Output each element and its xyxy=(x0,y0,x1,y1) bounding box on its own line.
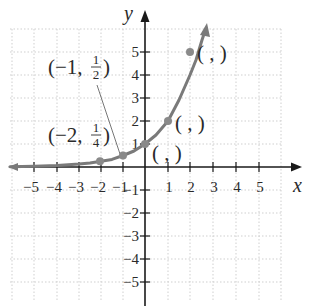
point-label-1: ( , ) xyxy=(175,111,205,135)
point-label-2: ( , ) xyxy=(197,41,227,65)
svg-text:5: 5 xyxy=(256,179,264,195)
point-1 xyxy=(164,117,172,125)
y-axis-arrow-icon xyxy=(141,10,150,22)
x-axis-arrow-icon xyxy=(291,163,302,172)
svg-text:2: 2 xyxy=(187,179,195,195)
svg-text:1: 1 xyxy=(93,52,100,67)
svg-text:3: 3 xyxy=(210,179,218,195)
x-tick-labels: −5 −4 −3 −2 −1 1 2 3 4 5 xyxy=(23,179,264,195)
svg-text:−2: −2 xyxy=(90,179,106,195)
svg-text:): ) xyxy=(103,123,110,147)
svg-text:−5: −5 xyxy=(123,274,139,290)
svg-text:(−2,: (−2, xyxy=(48,123,83,147)
svg-text:4: 4 xyxy=(233,179,241,195)
point-0 xyxy=(141,140,149,148)
svg-text:−3: −3 xyxy=(68,179,84,195)
y-axis-title: y xyxy=(122,2,133,25)
point-neg1 xyxy=(119,152,127,160)
svg-text:−2: −2 xyxy=(123,205,139,221)
svg-text:4: 4 xyxy=(93,135,100,150)
point-neg2 xyxy=(96,157,104,165)
point-label-0: ( , ) xyxy=(152,141,182,165)
svg-text:(−1,: (−1, xyxy=(48,55,83,79)
svg-text:−5: −5 xyxy=(23,179,39,195)
point-label-neg1: (−1, 1 2 ) xyxy=(48,52,110,82)
x-axis-title: x xyxy=(292,174,302,196)
svg-text:5: 5 xyxy=(132,44,140,60)
curve-arrow-icon xyxy=(200,23,210,37)
point-2 xyxy=(186,48,194,56)
svg-text:3: 3 xyxy=(132,90,140,106)
curve-left-arrow-icon xyxy=(8,163,18,171)
svg-text:−1: −1 xyxy=(123,182,139,198)
svg-text:4: 4 xyxy=(132,67,140,83)
svg-text:): ) xyxy=(103,55,110,79)
svg-text:2: 2 xyxy=(93,67,100,82)
svg-text:−4: −4 xyxy=(123,251,139,267)
svg-text:2: 2 xyxy=(132,113,140,129)
svg-text:1: 1 xyxy=(165,179,173,195)
exponential-graph: −5 −4 −3 −2 −1 1 2 3 4 5 5 4 3 2 1 −1 −2… xyxy=(0,0,313,306)
svg-text:−3: −3 xyxy=(123,228,139,244)
svg-text:1: 1 xyxy=(93,120,100,135)
svg-text:−4: −4 xyxy=(46,179,62,195)
